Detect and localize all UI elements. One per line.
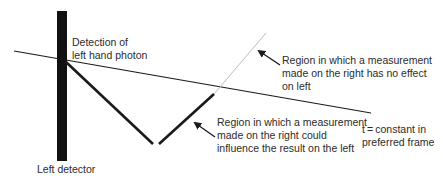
influence-region-label: Region in which a measurement made on th… xyxy=(217,116,367,155)
arrow-influence-icon xyxy=(195,123,215,137)
left-light-cone-line xyxy=(66,62,153,144)
left-detector-text: Left detector xyxy=(37,163,95,176)
influence-line-3: influence the result on the left xyxy=(217,142,367,155)
influence-line-2: made on the right could xyxy=(217,129,367,142)
t-constant-label: t = constant in preferred frame xyxy=(362,123,434,149)
detection-label: Detection of left hand photon xyxy=(72,36,147,62)
detection-label-line-2: left hand photon xyxy=(72,49,147,62)
left-detector-label: Left detector xyxy=(37,163,95,176)
right-light-cone-line xyxy=(159,94,214,144)
t-constant-line-1: t = constant in xyxy=(362,123,434,136)
no-effect-region-label: Region in which a measurement made on th… xyxy=(282,54,432,93)
no-effect-line-1: Region in which a measurement xyxy=(282,54,432,67)
influence-line-1: Region in which a measurement xyxy=(217,116,367,129)
arrow-no-effect-icon xyxy=(259,51,280,65)
no-effect-line-2: made on the right has no effect xyxy=(282,67,432,80)
t-constant-line-2: preferred frame xyxy=(362,136,434,149)
no-effect-line-3: on left xyxy=(282,80,432,93)
detection-label-line-1: Detection of xyxy=(72,36,147,49)
future-boundary-line xyxy=(214,33,266,94)
left-detector-bar xyxy=(57,11,67,161)
